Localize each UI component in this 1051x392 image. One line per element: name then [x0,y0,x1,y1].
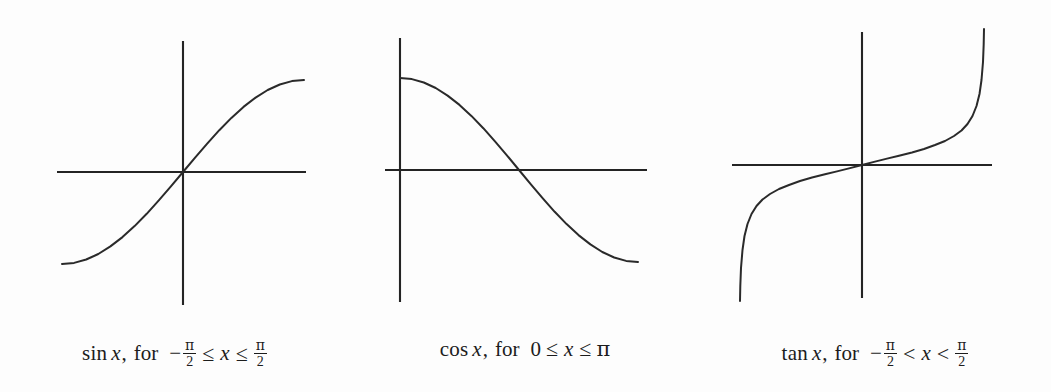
sine-right-relation: ≤ [234,343,250,365]
sine-lower-sign: − [169,343,182,364]
sine-function-name: sin [82,343,107,364]
tangent-plot [700,0,1051,330]
tangent-variable: x [811,343,822,364]
tangent-upper-bound-fraction: π 2 [955,338,968,370]
cosine-variable: x [471,339,482,360]
cosine-bound-variable: x [563,339,574,360]
trig-graphs-figure: sinx,for− π 2 ≤x≤ π 2 [0,0,1051,392]
cosine-right-relation: ≤ [577,338,593,360]
tangent-function-name: tan [782,343,808,364]
tangent-bound-variable: x [920,343,931,364]
sine-bound-variable: x [219,343,230,364]
tangent-for-word: for [834,343,859,364]
sine-left-relation: ≤ [200,343,216,365]
cosine-lower-bound: 0 [530,339,541,360]
cosine-function-name: cos [440,339,469,360]
cosine-upper-bound: π [596,339,610,360]
sine-comma: , [121,343,126,364]
tangent-right-relation: < [935,343,951,365]
tangent-left-relation: < [901,343,917,365]
cosine-comma: , [483,339,488,360]
panel-cosine: cosx,for0≤x≤π [350,0,700,392]
sine-for-word: for [134,343,159,364]
tangent-comma: , [822,343,827,364]
cosine-plot [350,0,700,330]
panel-sine: sinx,for− π 2 ≤x≤ π 2 [0,0,350,392]
panel-tangent: tanx,for− π 2 <x< π 2 [700,0,1051,392]
sine-lower-bound-fraction: π 2 [183,338,196,370]
sine-upper-bound-fraction: π 2 [254,338,267,370]
tangent-lower-bound-fraction: π 2 [884,338,897,370]
cosine-for-word: for [495,339,520,360]
tangent-caption: tanx,for− π 2 <x< π 2 [700,338,1051,370]
cosine-caption: cosx,for0≤x≤π [350,338,700,360]
sine-caption: sinx,for− π 2 ≤x≤ π 2 [0,338,350,370]
sine-variable: x [110,343,121,364]
sine-plot [0,0,350,330]
cosine-left-relation: ≤ [544,338,560,360]
tangent-lower-sign: − [870,343,883,364]
